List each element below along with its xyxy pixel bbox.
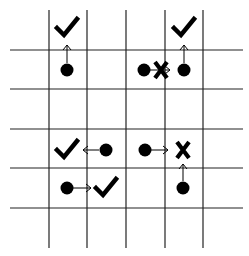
arrow-up-icon — [180, 45, 188, 63]
dot-icon — [138, 64, 151, 77]
check-mark-icon — [57, 19, 77, 35]
grid-diagram — [0, 0, 249, 256]
dot-icon — [61, 64, 74, 77]
dot-icon — [100, 144, 113, 157]
check-mark-icon — [174, 19, 194, 35]
arrow-left-icon — [83, 146, 99, 154]
arrow-right-icon — [73, 184, 91, 192]
check-mark-icon — [96, 179, 116, 195]
arrow-up-icon — [63, 45, 71, 63]
dot-icon — [139, 144, 152, 157]
grid-lines — [10, 10, 243, 248]
arrow-up-icon — [179, 164, 187, 181]
dot-icon — [178, 64, 191, 77]
dot-icon — [177, 182, 190, 195]
dot-icon — [61, 182, 74, 195]
cross-mark-icon — [177, 142, 189, 158]
check-mark-icon — [57, 141, 77, 157]
